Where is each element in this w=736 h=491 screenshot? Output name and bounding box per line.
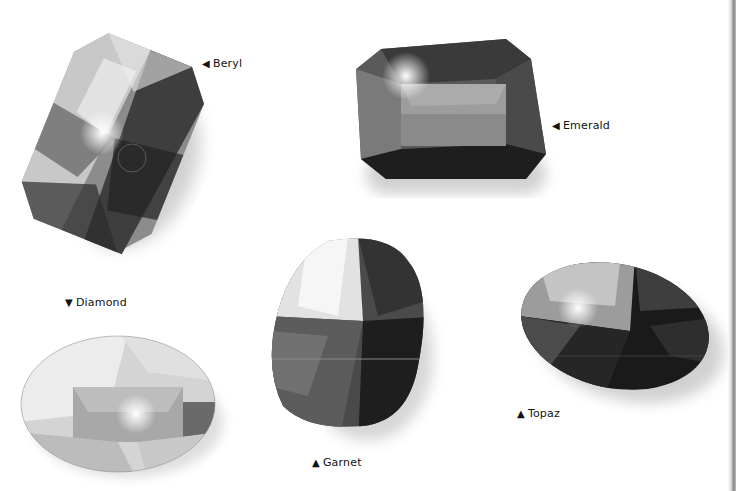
beryl-label: ◀Beryl: [202, 57, 242, 70]
garnet-gem-image: [268, 236, 443, 446]
triangle-up-icon: ▲: [312, 457, 320, 468]
triangle-down-icon: ▼: [65, 297, 73, 308]
diamond-label-text: Diamond: [76, 296, 127, 309]
beryl-gem-image: [14, 28, 214, 253]
garnet-label: ▲Garnet: [312, 456, 362, 469]
triangle-up-icon: ▲: [517, 408, 525, 419]
page-edge-shadow: [728, 0, 736, 491]
garnet-label-text: Garnet: [323, 456, 362, 469]
beryl-label-text: Beryl: [213, 57, 242, 70]
gem-showcase-canvas: ◀Beryl ◀Emerald ▼Diamon: [0, 0, 736, 491]
emerald-gem-image: [346, 34, 556, 204]
diamond-gem-image: [18, 332, 223, 482]
emerald-label-text: Emerald: [563, 119, 610, 132]
topaz-label-text: Topaz: [528, 407, 560, 420]
triangle-left-icon: ◀: [202, 58, 210, 69]
triangle-left-icon: ◀: [552, 120, 560, 131]
emerald-label: ◀Emerald: [552, 119, 610, 132]
topaz-label: ▲Topaz: [517, 407, 560, 420]
topaz-gem-image: [520, 256, 725, 406]
diamond-label: ▼Diamond: [65, 296, 127, 309]
